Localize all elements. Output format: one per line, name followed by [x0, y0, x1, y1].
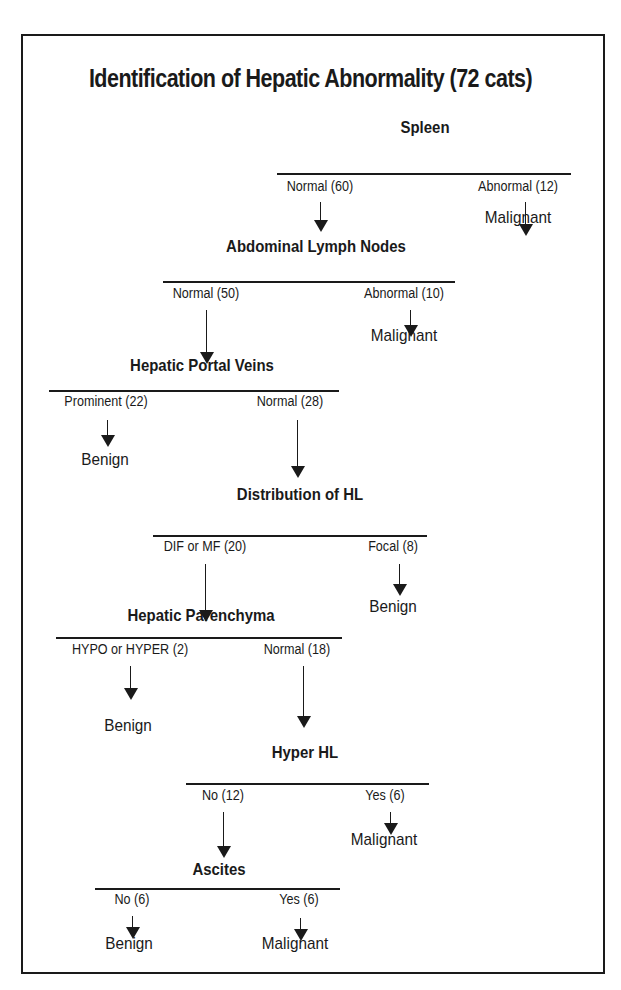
arrow-down-icon: [217, 846, 231, 858]
outcome-benign: Benign: [105, 934, 153, 954]
branch-portal-prominent: Prominent (22): [64, 393, 147, 409]
node-hepatic-parenchyma: Hepatic Parenchyma: [127, 606, 274, 626]
arrow-line: [303, 666, 304, 717]
divider-portal: [49, 390, 339, 392]
branch-lymph-normal: Normal (50): [173, 285, 240, 301]
branch-hyper-hl-yes: Yes (6): [365, 787, 404, 803]
arrow-down-icon: [101, 435, 115, 447]
node-abdominal-lymph-nodes: Abdominal Lymph Nodes: [226, 237, 406, 257]
arrow-down-icon: [314, 220, 328, 232]
branch-spleen-normal: Normal (60): [287, 178, 354, 194]
divider-ascites: [95, 888, 340, 890]
arrow-line: [130, 666, 131, 690]
branch-ascites-yes: Yes (6): [279, 891, 318, 907]
branch-hyper-hl-no: No (12): [202, 787, 244, 803]
branch-lymph-abnormal: Abnormal (10): [364, 285, 444, 301]
arrow-line: [320, 202, 321, 222]
outcome-malignant: Malignant: [262, 934, 328, 954]
node-hepatic-portal-veins: Hepatic Portal Veins: [130, 356, 274, 376]
branch-distribution-focal: Focal (8): [368, 538, 418, 554]
divider-parenchyma: [56, 637, 342, 639]
divider-hyper-hl: [186, 783, 429, 785]
branch-portal-normal: Normal (28): [257, 393, 324, 409]
outcome-malignant: Malignant: [485, 208, 551, 228]
node-ascites: Ascites: [192, 860, 245, 880]
divider-lymph: [163, 281, 455, 283]
arrow-line: [206, 310, 207, 355]
arrow-line: [297, 420, 298, 468]
arrow-line: [223, 812, 224, 848]
arrow-down-icon: [124, 688, 138, 700]
arrow-line: [205, 564, 206, 612]
node-spleen: Spleen: [400, 118, 449, 138]
outcome-benign: Benign: [104, 716, 152, 736]
arrow-down-icon: [297, 716, 311, 728]
outcome-benign: Benign: [369, 597, 417, 617]
arrow-down-icon: [393, 584, 407, 596]
node-hyper-hl: Hyper HL: [272, 743, 339, 763]
branch-distribution-dif-mf: DIF or MF (20): [164, 538, 247, 554]
outcome-malignant: Malignant: [351, 830, 417, 850]
diagram-title: Identification of Hepatic Abnormality (7…: [43, 64, 577, 93]
outcome-benign: Benign: [81, 450, 129, 470]
branch-spleen-abnormal: Abnormal (12): [478, 178, 558, 194]
branch-parenchyma-hypo-hyper: HYPO or HYPER (2): [72, 641, 188, 657]
outcome-malignant: Malignant: [371, 326, 437, 346]
arrow-down-icon: [291, 466, 305, 478]
branch-ascites-no: No (6): [114, 891, 149, 907]
node-distribution-of-hl: Distribution of HL: [237, 485, 363, 505]
divider-distribution: [153, 535, 427, 537]
divider-spleen: [277, 173, 571, 175]
branch-parenchyma-normal: Normal (18): [264, 641, 331, 657]
